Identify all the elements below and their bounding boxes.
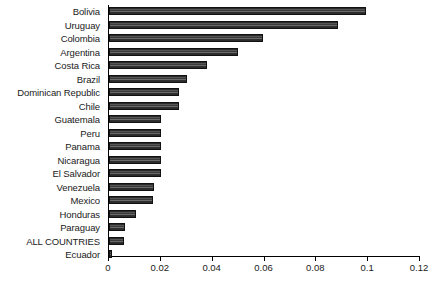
category-label: Argentina: [0, 46, 104, 60]
x-tick-mark: [212, 256, 213, 261]
bar: [109, 129, 161, 137]
category-label: Colombia: [0, 32, 104, 46]
category-label: Costa Rica: [0, 59, 104, 73]
bar: [109, 169, 161, 177]
bar: [109, 88, 179, 96]
bar-row: [109, 32, 420, 46]
bar-row: [109, 221, 420, 235]
x-tick-mark: [264, 256, 265, 261]
bar-row: [109, 140, 420, 154]
category-label: Uruguay: [0, 19, 104, 33]
bar: [109, 196, 153, 204]
x-tick-label: 0.02: [151, 262, 170, 273]
bar-row: [109, 181, 420, 195]
x-tick-mark: [108, 256, 109, 261]
bar-row: [109, 127, 420, 141]
bar-row: [109, 86, 420, 100]
bar: [109, 48, 238, 56]
bar-row: [109, 154, 420, 168]
x-tick-label: 0.1: [361, 262, 374, 273]
category-label: Guatemala: [0, 113, 104, 127]
x-tick-mark: [419, 256, 420, 261]
x-tick-mark: [160, 256, 161, 261]
category-label: Paraguay: [0, 221, 104, 235]
category-label: Venezuela: [0, 181, 104, 195]
category-label: El Salvador: [0, 167, 104, 181]
bar-row: [109, 235, 420, 249]
bar: [109, 223, 125, 231]
bar-series: [109, 5, 420, 256]
bar-row: [109, 113, 420, 127]
bar: [109, 115, 161, 123]
bar: [109, 61, 207, 69]
x-tick-label: 0: [105, 262, 110, 273]
bar-row: [109, 46, 420, 60]
x-tick-mark: [367, 256, 368, 261]
bar: [109, 75, 187, 83]
bar-row: [109, 59, 420, 73]
bar-row: [109, 19, 420, 33]
bar: [109, 102, 179, 110]
bar-row: [109, 167, 420, 181]
category-label: Peru: [0, 127, 104, 141]
bar: [109, 183, 154, 191]
bar: [109, 237, 124, 245]
bar: [109, 210, 136, 218]
category-label: Ecuador: [0, 248, 104, 262]
bar-row: [109, 208, 420, 222]
category-label: Chile: [0, 100, 104, 114]
bar: [109, 21, 338, 29]
category-label: Nicaragua: [0, 154, 104, 168]
x-tick-label: 0.06: [254, 262, 273, 273]
category-label: ALL COUNTRIES: [0, 235, 104, 249]
category-label: Brazil: [0, 73, 104, 87]
bar: [109, 7, 366, 15]
category-label: Dominican Republic: [0, 86, 104, 100]
x-tick-mark: [315, 256, 316, 261]
bar-row: [109, 100, 420, 114]
x-tick-label: 0.12: [410, 262, 429, 273]
category-label: Mexico: [0, 194, 104, 208]
bar: [109, 34, 263, 42]
bar-row: [109, 5, 420, 19]
bar: [109, 156, 161, 164]
x-axis-tick-labels: 00.020.040.060.080.10.12: [108, 262, 420, 278]
bar: [109, 142, 161, 150]
category-label: Honduras: [0, 208, 104, 222]
bar-chart: BoliviaUruguayColombiaArgentinaCosta Ric…: [0, 0, 435, 289]
plot-area: [108, 5, 420, 256]
bar-row: [109, 194, 420, 208]
x-tick-label: 0.04: [202, 262, 221, 273]
x-tick-label: 0.08: [306, 262, 325, 273]
category-label: Panama: [0, 140, 104, 154]
category-axis-labels: BoliviaUruguayColombiaArgentinaCosta Ric…: [0, 5, 104, 256]
category-label: Bolivia: [0, 5, 104, 19]
bar-row: [109, 73, 420, 87]
